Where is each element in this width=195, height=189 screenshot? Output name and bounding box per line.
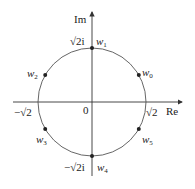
point-label-w2: w2: [27, 68, 38, 81]
point-w3: [43, 127, 47, 131]
tick-neg-imag: −√2i: [64, 162, 85, 173]
point-w0: [137, 73, 141, 77]
point-label-w5: w5: [142, 134, 153, 147]
point-label-w4: w4: [97, 162, 108, 175]
complex-plane-diagram: Im Re 0 √2i −√2i √2 −√2 w0 w1 w2 w3 w4 w…: [0, 0, 195, 189]
tick-pos-real: √2: [146, 107, 158, 118]
tick-pos-imag: √2i: [70, 36, 85, 47]
imag-axis-label: Im: [74, 14, 86, 25]
point-w4: [90, 154, 94, 158]
point-label-w3: w3: [36, 134, 47, 147]
real-axis-label: Re: [166, 106, 178, 117]
point-label-w0: w0: [142, 67, 153, 80]
point-w1: [90, 46, 94, 50]
tick-neg-real: −√2: [14, 107, 32, 118]
point-w5: [137, 127, 141, 131]
origin-label: 0: [83, 105, 89, 116]
point-w2: [43, 73, 47, 77]
point-label-w1: w1: [96, 36, 107, 49]
